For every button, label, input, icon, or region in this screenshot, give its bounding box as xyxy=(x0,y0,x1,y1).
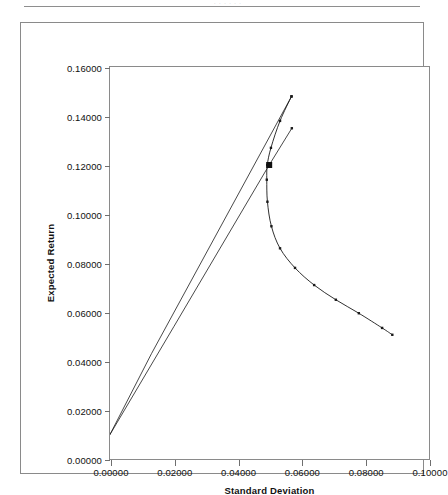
data-point-marker xyxy=(290,95,292,97)
y-axis-tick-mark xyxy=(105,166,110,167)
line-endpoint-marker xyxy=(291,127,293,129)
y-axis-tick-label: 0.08000 xyxy=(67,259,110,270)
x-axis-tick-mark xyxy=(239,460,240,466)
plot-area: 0.000000.020000.040000.060000.080000.100… xyxy=(109,66,430,460)
chart-object-frame: Expected Return Standard Deviation 0.000… xyxy=(20,22,424,474)
data-point-marker xyxy=(266,201,268,203)
y-axis-tick-label: 0.04000 xyxy=(67,357,110,368)
frontier-plot-svg xyxy=(110,67,429,459)
data-point-marker xyxy=(266,179,268,181)
data-point-marker xyxy=(358,312,360,314)
y-axis-title: Expected Return xyxy=(45,224,56,303)
tangency-portfolio-marker xyxy=(266,162,272,168)
data-point-marker xyxy=(335,299,337,301)
data-point-marker xyxy=(279,247,281,249)
y-axis-tick-mark xyxy=(105,313,110,314)
x-axis-tick-mark xyxy=(366,460,367,466)
y-axis-tick-mark xyxy=(105,264,110,265)
series-line xyxy=(110,96,292,434)
y-axis-tick-label: 0.02000 xyxy=(67,406,110,417)
data-point-marker xyxy=(279,120,281,122)
data-point-marker xyxy=(270,225,272,227)
data-point-marker xyxy=(294,267,296,269)
data-point-marker xyxy=(313,284,315,286)
scan-header-ghost-text: · · · · · · xyxy=(168,0,288,5)
y-axis-tick-label: 0.16000 xyxy=(67,63,110,74)
y-axis-tick-mark xyxy=(105,117,110,118)
y-axis-tick-label: 0.06000 xyxy=(67,308,110,319)
y-axis-tick-mark xyxy=(105,362,110,363)
series-line xyxy=(110,128,292,434)
y-axis-tick-mark xyxy=(105,215,110,216)
series-line xyxy=(267,96,393,334)
scan-header-rule xyxy=(24,6,420,7)
y-axis-tick-label: 0.14000 xyxy=(67,112,110,123)
y-axis-tick-label: 0.10000 xyxy=(67,210,110,221)
x-axis-title: Standard Deviation xyxy=(109,485,430,495)
data-point-marker xyxy=(391,334,393,336)
y-axis-tick-mark xyxy=(105,411,110,412)
x-axis-tick-mark xyxy=(175,460,176,466)
y-axis-tick-label: 0.12000 xyxy=(67,161,110,172)
data-point-marker xyxy=(270,147,272,149)
x-axis-tick-mark xyxy=(111,460,112,466)
x-axis-tick-mark xyxy=(430,460,431,466)
x-axis-tick-mark xyxy=(302,460,303,466)
data-point-marker xyxy=(381,327,383,329)
y-axis-tick-mark xyxy=(105,68,110,69)
